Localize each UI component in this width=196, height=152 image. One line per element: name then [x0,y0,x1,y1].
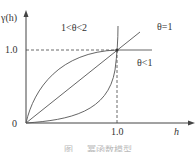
x-axis-arrow-icon [188,121,195,126]
intersection-point [115,48,118,51]
origin-label: 0 [12,119,17,129]
y-axis-arrow-icon [24,10,29,17]
figure-caption: 图 … 幂函数模型 [0,143,196,152]
annotation-theta-eq-1: θ=1 [157,22,172,32]
curve-theta-lt-1 [26,50,152,123]
curve-theta-1-to-2 [26,26,118,123]
y-tick-one: 1.0 [5,45,18,55]
y-axis-label: γ(h) [1,13,17,23]
annotation-theta-range: 1<θ<2 [61,23,87,33]
x-tick-one: 1.0 [111,127,124,137]
annotation-theta-lt-1: θ<1 [137,58,152,68]
line-theta-eq-1 [26,32,140,123]
x-axis-label: h [174,127,179,137]
